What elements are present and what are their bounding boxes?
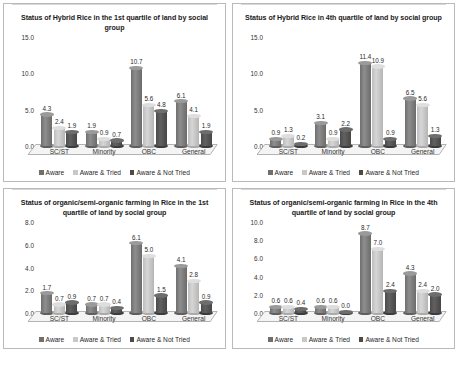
bar[interactable]: 5.6 xyxy=(143,103,154,146)
legend-item-aware-tried[interactable]: Aware & Tried xyxy=(73,336,121,343)
legend-swatch-icon xyxy=(130,170,135,175)
legend-item-aware-not-tried[interactable]: Aware & Not Tried xyxy=(130,336,190,343)
bar[interactable]: 4.3 xyxy=(41,112,52,146)
bar[interactable]: 11.4 xyxy=(360,61,371,146)
legend-item-aware-tried[interactable]: Aware & Tried xyxy=(73,169,121,176)
bar[interactable]: 1.9 xyxy=(66,130,77,146)
bar[interactable]: 6.1 xyxy=(131,241,142,313)
bar-value-label: 5.0 xyxy=(144,246,153,253)
bar[interactable]: 0.7 xyxy=(54,302,65,313)
bar-value-label: 0.9 xyxy=(271,129,280,136)
bar[interactable]: 0.6 xyxy=(328,305,339,313)
legend-item-aware-tried[interactable]: Aware & Tried xyxy=(302,336,350,343)
bar-value-label: 10.7 xyxy=(130,58,142,65)
bar[interactable]: 4.8 xyxy=(156,109,167,146)
bar[interactable]: 2.2 xyxy=(340,127,351,146)
bar-value-label: 1.3 xyxy=(284,126,293,133)
bar[interactable]: 1.3 xyxy=(283,134,294,146)
bar[interactable]: 0.7 xyxy=(99,302,110,313)
bar-value-label: 0.7 xyxy=(100,295,109,302)
bar-top-ellipse xyxy=(428,292,442,296)
legend-item-aware[interactable]: Aware xyxy=(268,336,293,343)
bar-value-label: 2.2 xyxy=(341,120,350,127)
legend-divider xyxy=(12,189,217,190)
legend-item-aware-not-tried[interactable]: Aware & Not Tried xyxy=(130,169,190,176)
bar[interactable]: 2.4 xyxy=(417,289,428,313)
bar[interactable]: 0.9 xyxy=(270,137,281,146)
bar[interactable]: 0.2 xyxy=(295,142,306,146)
bar[interactable]: 8.7 xyxy=(360,231,371,313)
legend-item-aware[interactable]: Aware xyxy=(39,169,64,176)
category-group-sc-st: 1.70.70.9 xyxy=(37,222,82,313)
x-axis-tick: SC/ST xyxy=(37,148,82,162)
legend-item-aware[interactable]: Aware xyxy=(39,336,64,343)
bar[interactable]: 1.3 xyxy=(430,134,441,146)
bar-value-label: 0.6 xyxy=(284,297,293,304)
bar[interactable]: 2.0 xyxy=(430,292,441,313)
bar-value-label: 7.0 xyxy=(373,239,382,246)
bar[interactable]: 1.7 xyxy=(41,291,52,313)
legend-swatch-icon xyxy=(73,337,78,342)
y-axis-tick: 0.0 xyxy=(254,310,263,317)
bar[interactable]: 7.0 xyxy=(372,247,383,313)
x-axis-tick: SC/ST xyxy=(37,315,82,329)
bar-value-label: 10.9 xyxy=(372,57,384,64)
bar-top-ellipse xyxy=(40,112,54,116)
bar-holder: 0.6 xyxy=(283,222,294,313)
legend-label: Aware & Tried xyxy=(80,336,121,343)
bar[interactable]: 0.0 xyxy=(340,310,351,313)
bar[interactable]: 4.3 xyxy=(405,271,416,313)
bar[interactable]: 5.0 xyxy=(143,254,154,313)
bar[interactable]: 0.7 xyxy=(86,302,97,313)
bar-holder: 10.7 xyxy=(131,37,142,146)
bar[interactable]: 2.4 xyxy=(54,126,65,146)
chart-title: Status of organic/semi-organic farming i… xyxy=(237,193,450,220)
chart-legend: Aware Aware & Tried Aware & Not Tried xyxy=(237,335,450,346)
bar[interactable]: 6.5 xyxy=(405,96,416,146)
chart-legend: Aware Aware & Tried Aware & Not Tried xyxy=(8,335,221,346)
bar[interactable]: 0.7 xyxy=(111,138,122,146)
legend-item-aware-not-tried[interactable]: Aware & Not Tried xyxy=(359,169,419,176)
chart-panel-hybrid-rice-1st-quartile: Status of Hybrid Rice in the 1st quartil… xyxy=(0,0,229,185)
bar[interactable]: 0.9 xyxy=(385,137,396,146)
bar[interactable]: 2.8 xyxy=(188,279,199,313)
legend-swatch-icon xyxy=(359,170,364,175)
chart-title: Status of organic/semi-organic farming i… xyxy=(8,193,221,220)
bar[interactable]: 0.6 xyxy=(270,305,281,313)
legend-item-aware[interactable]: Aware xyxy=(268,169,293,176)
category-group-minority: 3.10.92.2 xyxy=(311,37,356,146)
legend-item-aware-tried[interactable]: Aware & Tried xyxy=(302,169,350,176)
bar[interactable]: 10.9 xyxy=(372,64,383,146)
bar[interactable]: 0.9 xyxy=(328,137,339,146)
bar[interactable]: 0.6 xyxy=(283,305,294,313)
bar[interactable]: 0.9 xyxy=(99,137,110,146)
bar[interactable]: 0.9 xyxy=(66,300,77,313)
bar[interactable]: 5.6 xyxy=(417,103,428,146)
bar[interactable]: 6.1 xyxy=(176,99,187,146)
bar[interactable]: 3.1 xyxy=(315,121,326,146)
bar-face xyxy=(143,105,154,146)
bar[interactable]: 4.1 xyxy=(188,114,199,146)
bar[interactable]: 0.4 xyxy=(111,306,122,313)
bar-value-label: 2.4 xyxy=(55,118,64,125)
legend-item-aware-not-tried[interactable]: Aware & Not Tried xyxy=(359,336,419,343)
bar-value-label: 6.1 xyxy=(177,92,186,99)
bar-value-label: 0.9 xyxy=(386,129,395,136)
y-axis-tick: 0.0 xyxy=(25,310,34,317)
bar-holder: 0.4 xyxy=(295,222,306,313)
category-group-obc: 10.75.64.8 xyxy=(127,37,172,146)
bar[interactable]: 10.7 xyxy=(131,66,142,146)
plot-wrap: 0.05.010.015.0 0.91.30.23.10.92.211.410.… xyxy=(239,37,448,168)
bar[interactable]: 0.4 xyxy=(295,307,306,313)
bar[interactable]: 1.5 xyxy=(156,293,167,313)
bar[interactable]: 0.9 xyxy=(201,300,212,313)
bar[interactable]: 2.4 xyxy=(385,289,396,313)
figure-page: Status of Hybrid Rice in the 1st quartil… xyxy=(0,0,458,371)
bar-top-ellipse xyxy=(110,138,124,142)
bar-top-ellipse xyxy=(339,310,353,314)
bar[interactable]: 0.6 xyxy=(315,305,326,313)
bar[interactable]: 1.9 xyxy=(86,130,97,146)
bar[interactable]: 4.1 xyxy=(176,264,187,313)
bar-top-ellipse xyxy=(154,109,168,113)
bar[interactable]: 1.9 xyxy=(201,130,212,146)
